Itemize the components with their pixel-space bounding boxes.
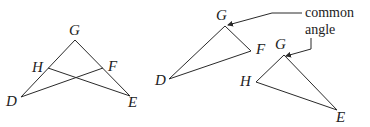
triangle-DGF: [169, 26, 251, 79]
diagram-canvas: G H F D E G F D G H E common angle: [0, 0, 370, 127]
common-angle-annotation: common angle: [228, 5, 354, 56]
vertex-label-G-bottom: G: [275, 36, 286, 52]
vertex-label-E-bottom: E: [335, 109, 345, 125]
vertex-label-H-bottom: H: [239, 73, 252, 89]
vertex-label-F-top: F: [255, 41, 266, 57]
vertex-label-H: H: [31, 59, 44, 75]
vertex-label-G-top: G: [216, 7, 227, 23]
leader-arrow-to-top-G: [228, 13, 302, 25]
leader-arrow-to-bottom-G: [286, 38, 311, 56]
annotation-line-1: common: [305, 5, 354, 20]
right-bottom-triangle: G H E: [239, 36, 345, 125]
annotation-line-2: angle: [305, 22, 335, 37]
left-figure: G H F D E: [5, 22, 137, 110]
vertex-label-G: G: [69, 22, 80, 38]
triangle-HGE: [256, 55, 337, 110]
segment-HE: [48, 68, 130, 96]
vertex-label-D: D: [5, 93, 17, 109]
vertex-label-E: E: [127, 94, 137, 110]
vertex-label-F: F: [107, 58, 118, 74]
diagram-svg: G H F D E G F D G H E common angle: [0, 0, 370, 127]
vertex-label-D-top: D: [154, 72, 166, 88]
